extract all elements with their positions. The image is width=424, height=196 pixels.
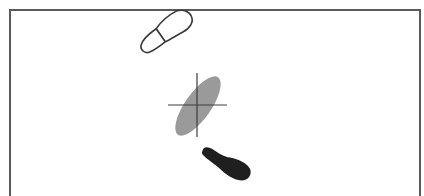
solid-footprint-icon [197,145,253,185]
diagram-canvas: Footstep trajectory with center of press… [0,0,424,196]
frame-border [10,10,420,196]
outline-footprint-icon [135,5,196,57]
pressure-ellipse [167,70,228,142]
